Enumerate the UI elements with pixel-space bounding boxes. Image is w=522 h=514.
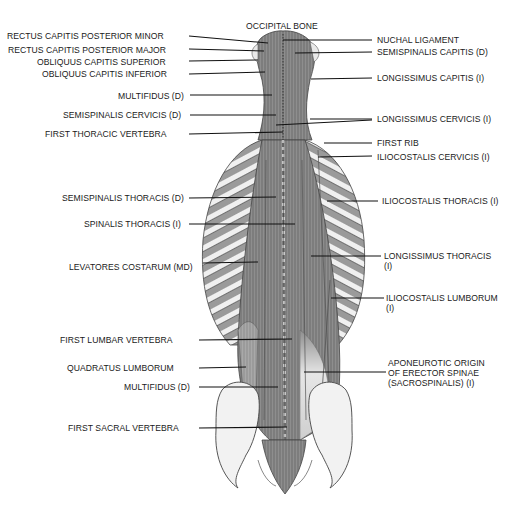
label-iliocostalis-lumborum: ILIOCOSTALIS LUMBORUM (I) xyxy=(386,293,498,313)
label-iliocostalis-cervicis: ILIOCOSTALIS CERVICIS (I) xyxy=(377,152,490,162)
leader-line-ocs xyxy=(189,60,258,61)
label-ocs: OBLIQUUS CAPITIS SUPERIOR xyxy=(37,57,166,67)
label-longissimus-capitis: LONGISSIMUS CAPITIS (I) xyxy=(377,73,484,83)
label-aponeurotic-origin: APONEUROTIC ORIGIN OF ERECTOR SPINAE (SA… xyxy=(388,358,485,388)
label-first-rib: FIRST RIB xyxy=(377,138,419,148)
label-spinalis-thoracis: SPINALIS THORACIS (I) xyxy=(84,219,181,229)
label-longissimus-thoracis: LONGISSIMUS THORACIS (I) xyxy=(384,251,491,271)
label-oci: OBLIQUUS CAPITIS INFERIOR xyxy=(42,69,167,79)
label-multifidus-d-lower: MULTIFIDUS (D) xyxy=(124,382,190,392)
label-levatores-costarum: LEVATORES COSTARUM (MD) xyxy=(69,262,193,272)
label-semispinalis-cervicis: SEMISPINALIS CERVICIS (D) xyxy=(63,110,181,120)
label-quadratus-lumborum: QUADRATUS LUMBORUM xyxy=(67,363,174,373)
label-semispinalis-thoracis: SEMISPINALIS THORACIS (D) xyxy=(62,193,184,203)
label-nuchal-ligament: NUCHAL LIGAMENT xyxy=(377,35,459,45)
anatomy-diagram: RECTUS CAPITIS POSTERIOR MINORRECTUS CAP… xyxy=(0,0,522,514)
leader-line-longissimus-capitis xyxy=(311,78,372,79)
leader-line-oci xyxy=(189,72,265,74)
label-rcp-minor: RECTUS CAPITIS POSTERIOR MINOR xyxy=(7,31,164,41)
label-semispinalis-capitis: SEMISPINALIS CAPITIS (D) xyxy=(377,47,488,57)
label-occipital-bone: OCCIPITAL BONE xyxy=(246,21,318,31)
label-first-sacral-vertebra: FIRST SACRAL VERTEBRA xyxy=(68,423,179,433)
label-first-lumbar-vertebra: FIRST LUMBAR VERTEBRA xyxy=(60,335,172,345)
leader-line-rcp-minor xyxy=(189,36,268,43)
label-iliocostalis-thoracis: ILIOCOSTALIS THORACIS (I) xyxy=(382,196,499,206)
label-multifidus-d-upper: MULTIFIDUS (D) xyxy=(118,91,184,101)
label-longissimus-cervicis: LONGISSIMUS CERVICIS (I) xyxy=(377,114,491,124)
label-first-thoracic-vertebra: FIRST THORACIC VERTEBRA xyxy=(45,129,166,139)
label-rcp-major: RECTUS CAPITIS POSTERIOR MAJOR xyxy=(8,45,166,55)
